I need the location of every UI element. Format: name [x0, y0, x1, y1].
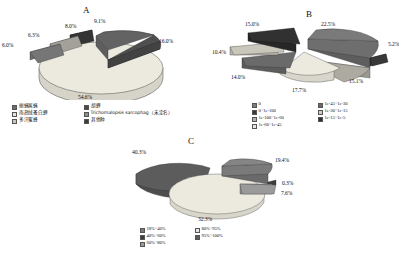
pie-b-value-17: 17.7% [292, 87, 306, 93]
panel-c: C [100, 130, 320, 260]
legend-item[interactable]: 1e-45~1e-30 [318, 101, 384, 108]
legend-label: 丽蝇属蝇 [19, 103, 39, 109]
legend-swatch-icon [12, 105, 17, 110]
legend-item[interactable]: 0 [252, 101, 318, 108]
legend-swatch-icon [140, 228, 145, 233]
legend-b-col-1: 0 0~1e-100 1e-100~1e-60 1e-60~1e-45 [252, 101, 318, 129]
pie-b-value-22: 22.5% [321, 21, 335, 27]
legend-label: 雨燕绒蚤白蝉 [19, 110, 49, 116]
legend-c: 18%~40% 40%~60% 60%~80% 80%~95% [140, 226, 255, 247]
legend-swatch-icon [252, 110, 257, 115]
legend-item[interactable]: 多汗蜜蜂 [12, 117, 84, 124]
legend-b: 0 0~1e-100 1e-100~1e-60 1e-60~1e-45 [252, 101, 384, 129]
legend-swatch-icon [318, 117, 323, 122]
legend-item[interactable]: 雨燕绒蚤白蝉 [12, 110, 84, 117]
legend-label: 0~1e-100 [259, 108, 276, 114]
panel-b: B [200, 0, 399, 130]
legend-label: 1e-15~1e-5 [325, 115, 346, 121]
legend-label: 18%~40% [147, 226, 166, 232]
pie-a-value-6-3: 6.3% [28, 32, 39, 38]
legend-swatch-icon [195, 228, 200, 233]
legend-swatch-icon [252, 117, 257, 122]
legend-label: 其他种 [91, 117, 106, 123]
legend-item[interactable]: Trichomalopsis sarcophag（未定名） [84, 110, 196, 117]
pie-a-value-9: 9.1% [94, 18, 105, 24]
legend-item[interactable]: 1e-60~1e-45 [252, 122, 318, 129]
legend-swatch-icon [140, 235, 145, 240]
pie-c-value-7-6: 7.6% [281, 190, 292, 196]
legend-swatch-icon [12, 119, 17, 124]
panel-a-title: A [83, 5, 90, 15]
legend-item[interactable]: 95%~100% [195, 233, 255, 240]
panel-b-title: B [306, 9, 312, 19]
panel-c-title: C [188, 136, 194, 146]
legend-label: 60%~80% [147, 240, 166, 246]
legend-label: 1e-30~1e-15 [325, 108, 348, 114]
legend-label: 80%~95% [202, 226, 221, 232]
legend-swatch-icon [318, 103, 323, 108]
legend-item[interactable]: 0~1e-100 [252, 108, 318, 115]
legend-label: 1e-45~1e-30 [325, 101, 348, 107]
pie-a-value-16: 16.0% [159, 38, 173, 44]
legend-item[interactable]: 丽蝇属蝇 [12, 103, 84, 110]
legend-label: 胡蝉 [91, 103, 101, 109]
legend-label: 1e-60~1e-45 [259, 122, 282, 128]
pie-c-value-32: 32.3% [198, 216, 212, 222]
legend-item[interactable]: 其他种 [84, 117, 196, 124]
legend-b-col-2: 1e-45~1e-30 1e-30~1e-15 1e-15~1e-5 [318, 101, 384, 122]
legend-label: 1e-100~1e-60 [259, 115, 284, 121]
pie-a-value-54: 54.6% [78, 94, 92, 100]
legend-c-col-1: 18%~40% 40%~60% 60%~80% [140, 226, 195, 247]
pie-b-value-10: 10.4% [212, 49, 226, 55]
legend-item[interactable]: 40%~60% [140, 233, 195, 240]
legend-label: 多汗蜜蜂 [19, 117, 39, 123]
legend-swatch-icon [84, 119, 89, 124]
legend-label: 95%~100% [202, 233, 223, 239]
pie-a-value-6-0: 6.0% [2, 42, 13, 48]
legend-item[interactable]: 80%~95% [195, 226, 255, 233]
pie-b-value-15-1: 15.1% [349, 78, 363, 84]
legend-swatch-icon [12, 112, 17, 117]
legend-item[interactable]: 1e-15~1e-5 [318, 115, 384, 122]
legend-a-col-2: 胡蝉 Trichomalopsis sarcophag（未定名） 其他种 [84, 103, 196, 124]
legend-swatch-icon [252, 103, 257, 108]
legend-swatch-icon [140, 242, 145, 247]
pie-b-value-14: 14.0% [231, 74, 245, 80]
pie-a-value-8: 8.0% [65, 23, 76, 29]
pie-c-value-0-3: 0.3% [282, 180, 293, 186]
legend-swatch-icon [252, 124, 257, 129]
legend-swatch-icon [195, 235, 200, 240]
pie-b-value-5: 5.2% [388, 41, 399, 47]
pie-c-value-40: 40.3% [132, 149, 146, 155]
legend-swatch-icon [318, 110, 323, 115]
legend-a: 丽蝇属蝇 雨燕绒蚤白蝉 多汗蜜蜂 胡蝉 Trichomalo [12, 103, 196, 124]
legend-item[interactable]: 1e-30~1e-15 [318, 108, 384, 115]
panel-a: A [0, 0, 200, 130]
legend-c-col-2: 80%~95% 95%~100% [195, 226, 255, 240]
legend-swatch-icon [84, 112, 89, 117]
legend-a-col-1: 丽蝇属蝇 雨燕绒蚤白蝉 多汗蜜蜂 [12, 103, 84, 124]
legend-swatch-icon [84, 105, 89, 110]
pie-chart-a: 9.1% 16.0% 54.6% 6.0% 6.3% 8.0% [8, 22, 193, 100]
pie-c-value-19: 19.4% [275, 157, 289, 163]
legend-item[interactable]: 60%~80% [140, 240, 195, 247]
figure-container: A [0, 0, 399, 260]
legend-label: 0 [259, 101, 261, 107]
pie-b-value-15-0: 15.0% [245, 21, 259, 27]
legend-item[interactable]: 18%~40% [140, 226, 195, 233]
legend-item[interactable]: 1e-100~1e-60 [252, 115, 318, 122]
legend-label: 40%~60% [147, 233, 166, 239]
legend-label: Trichomalopsis sarcophag（未定名） [91, 110, 174, 116]
pie-chart-b: 22.5% 5.2% 15.1% 17.7% 14.0% 10.4% 15.0% [220, 22, 399, 98]
pie-chart-c: 40.3% 19.4% 0.3% 7.6% 32.3% [130, 154, 300, 224]
legend-item[interactable]: 胡蝉 [84, 103, 196, 110]
